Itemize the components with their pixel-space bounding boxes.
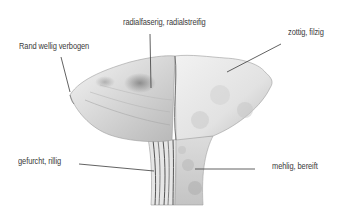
- cap-fibrous: [70, 56, 175, 142]
- stipe-mealy: [175, 136, 213, 205]
- label-mehlig-bereift: mehlig, bereift: [272, 161, 318, 171]
- label-gefurcht-rillig: gefurcht, rillig: [18, 156, 61, 166]
- label-rand-wellig-verbogen: Rand wellig verbogen: [19, 41, 89, 51]
- leader-line-gefurcht: [79, 164, 154, 171]
- stipe-furrowed: [148, 138, 178, 205]
- label-zottig-filzig: zottig, filzig: [288, 27, 324, 37]
- cap-felty: [175, 55, 272, 140]
- mushroom-diagram: Rand wellig verbogen radialfaserig, radi…: [0, 0, 353, 216]
- label-radialfaserig: radialfaserig, radialstreifig: [123, 17, 206, 27]
- leader-line-rand: [61, 57, 70, 92]
